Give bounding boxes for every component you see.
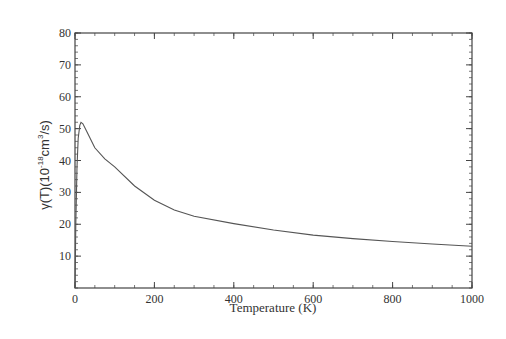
x-tick-label: 1000 [460,292,484,306]
x-axis-title: Temperature (K) [230,300,317,315]
y-tick-label: 50 [59,122,71,136]
data-line [75,122,472,288]
x-tick-label: 200 [145,292,163,306]
minor-ticks [75,33,472,288]
y-axis-title: γ(T)(10-18cm3/s) [36,120,52,210]
y-tick-label: 80 [59,26,71,40]
chart: 02004006008001000 1020304050607080 Tempe… [0,0,506,339]
y-tick-label: 20 [59,217,71,231]
y-tick-label: 60 [59,90,71,104]
y-tick-label: 70 [59,58,71,72]
x-tick-label: 800 [384,292,402,306]
plot-frame [75,33,472,288]
y-tick-label: 30 [59,185,71,199]
y-tick-labels: 1020304050607080 [59,26,71,263]
y-tick-label: 10 [59,249,71,263]
x-tick-label: 0 [72,292,78,306]
y-tick-label: 40 [59,154,71,168]
major-ticks [75,33,472,288]
